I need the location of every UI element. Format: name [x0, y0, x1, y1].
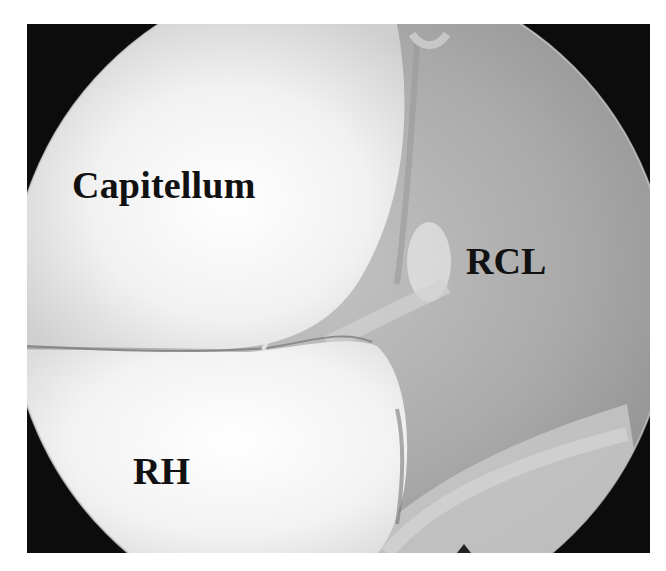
label-rcl: RCL: [466, 242, 546, 280]
arthroscopy-image: Capitellum RCL RH: [27, 24, 650, 553]
label-capitellum: Capitellum: [72, 166, 256, 204]
arthroscopic-field-of-view: [27, 24, 650, 553]
label-rh: RH: [133, 452, 190, 490]
